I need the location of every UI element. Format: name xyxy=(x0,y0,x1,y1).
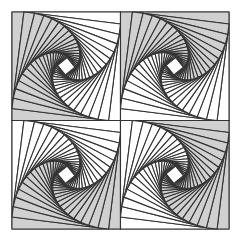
quadrant-group xyxy=(12,12,229,229)
quadrant-top-left xyxy=(12,12,121,121)
whirl-pattern-figure xyxy=(0,0,237,239)
quadrant-bottom-left xyxy=(12,121,121,230)
quadrant-bottom-right xyxy=(121,121,230,230)
whirl-pattern-svg xyxy=(0,0,237,239)
quadrant-top-right xyxy=(121,12,230,121)
